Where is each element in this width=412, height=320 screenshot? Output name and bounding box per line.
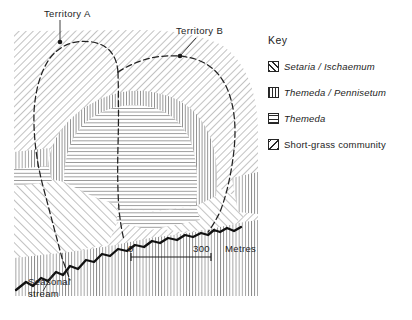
legend-title: Key <box>268 34 410 46</box>
legend-label-setaria-ischaemum: Setaria / Ischaemum <box>284 61 375 72</box>
legend-label-short-grass: Short-grass community <box>284 139 386 150</box>
legend: Key Setaria / Ischaemum Themeda / Pennis… <box>268 34 410 165</box>
leader-dot-territory-a <box>58 40 63 45</box>
leader-dot-territory-b <box>178 54 183 59</box>
legend-swatch-horizontal-icon <box>268 113 279 124</box>
scale-label-unit: Metres <box>225 243 256 254</box>
label-territory-a: Territory A <box>44 8 91 19</box>
label-territory-b: Territory B <box>176 25 223 36</box>
legend-item-setaria-ischaemum: Setaria / Ischaemum <box>268 61 410 72</box>
legend-item-themeda-pennisetum: Themeda / Pennisetum <box>268 87 410 98</box>
legend-swatch-vertical-icon <box>268 87 279 98</box>
label-seasonal-stream: Seasonal stream <box>28 276 98 300</box>
scale-label-start: 0 <box>128 243 134 254</box>
legend-item-short-grass: Short-grass community <box>268 139 410 150</box>
legend-swatch-diagonal-forward-icon <box>268 61 279 72</box>
legend-label-themeda: Themeda <box>284 113 326 124</box>
map-body <box>14 30 258 296</box>
legend-swatch-diagonal-backward-icon <box>268 139 279 150</box>
scale-label-end: 300 <box>193 243 210 254</box>
figure-root: Territory A Territory B Seasonal stream … <box>0 0 412 320</box>
legend-item-themeda: Themeda <box>268 113 410 124</box>
legend-label-themeda-pennisetum: Themeda / Pennisetum <box>284 87 386 98</box>
